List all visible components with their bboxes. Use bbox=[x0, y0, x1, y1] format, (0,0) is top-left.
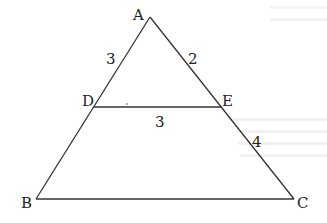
length-label-ad: 3 bbox=[106, 50, 116, 68]
vertex-label-b: B bbox=[21, 194, 32, 212]
stray-dot bbox=[126, 103, 128, 105]
length-label-ec: 4 bbox=[252, 133, 262, 151]
length-label-de: 3 bbox=[155, 113, 165, 131]
vertex-label-e: E bbox=[222, 92, 233, 110]
vertex-label-c: C bbox=[297, 194, 308, 212]
triangle-diagram: A D E B C 3 2 3 4 bbox=[0, 0, 327, 223]
vertex-label-a: A bbox=[132, 6, 144, 24]
vertex-label-d: D bbox=[82, 92, 94, 110]
length-label-ae: 2 bbox=[188, 50, 198, 68]
